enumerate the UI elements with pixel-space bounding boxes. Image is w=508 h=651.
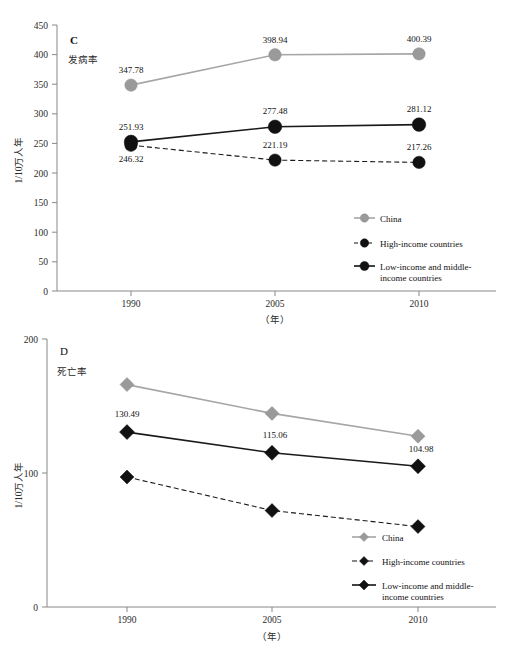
china-diamond-icon	[360, 533, 369, 542]
panel-c-subtitle: 发病率	[68, 54, 98, 65]
panel-c-x-ticks	[131, 291, 419, 296]
panel-c-value-high-income-2005: 221.19	[263, 140, 288, 150]
panel-c-plot: 450 400 350 300 250 200 150 100 50 0 1/1…	[0, 0, 508, 330]
panel-c-ytick-450: 450	[34, 21, 49, 31]
panel-d-value-low-middle-2010: 104.98	[409, 444, 434, 454]
panel-c-ytick-200: 200	[34, 169, 49, 179]
low-middle-diamond-icon	[359, 580, 369, 590]
panel-c-point-low-middle-1990	[124, 135, 138, 149]
panel-d-legend-item-low-middle[interactable]: Low-income and middle- income countries	[352, 580, 473, 602]
panel-c-legend-item-low-middle[interactable]: Low-income and middle- income countries	[354, 262, 471, 283]
panel-c-legend-label-low-middle-2: income countries	[380, 273, 442, 283]
panel-d-value-low-middle-1990: 130.49	[115, 409, 140, 419]
panel-d-legend: China High-income countries Low-income a…	[352, 533, 473, 602]
panel-d-xtick-2010: 2010	[409, 615, 428, 625]
high-income-diamond-icon	[360, 557, 369, 566]
panel-d-point-low-middle-1990	[120, 425, 135, 440]
panel-c-ytick-250: 250	[34, 139, 49, 149]
panel-c-value-low-middle-2010: 281.12	[407, 104, 432, 114]
panel-d-legend-label-high-income: High-income countries	[382, 557, 465, 567]
panel-d-y-ticks	[42, 339, 47, 607]
panel-d-xtick-2005: 2005	[263, 615, 282, 625]
panel-d-letter: D	[60, 345, 68, 357]
panel-c-ytick-100: 100	[34, 228, 49, 238]
panel-c-xtick-2010: 2010	[410, 299, 429, 309]
panel-c-value-high-income-2010: 217.26	[407, 142, 432, 152]
panel-c-point-china-2005	[269, 49, 281, 61]
china-marker-icon	[360, 214, 368, 222]
panel-c-ytick-400: 400	[34, 50, 49, 60]
panel-c-value-china-2005: 398.94	[263, 35, 288, 45]
panel-c-legend-item-china[interactable]: China	[354, 214, 402, 224]
panel-d-legend-item-china[interactable]: China	[352, 533, 404, 543]
panel-d-ytick-200: 200	[24, 335, 39, 345]
panel-c-y-ticks	[52, 25, 57, 291]
panel-c-legend: China High-income countries Low-income a…	[354, 214, 471, 283]
panel-c-legend-item-high-income[interactable]: High-income countries	[354, 239, 463, 249]
panel-c-point-low-middle-2010	[412, 118, 426, 132]
panel-c-value-low-middle-1990: 251.93	[119, 122, 144, 132]
panel-c-ytick-350: 350	[34, 80, 49, 90]
panel-c-legend-label-low-middle-1: Low-income and middle-	[380, 262, 471, 272]
panel-c-point-china-1990	[125, 79, 137, 91]
panel-d-legend-label-china: China	[382, 533, 404, 543]
panel-c-point-high-income-2010	[413, 156, 425, 168]
panel-c-ytick-300: 300	[34, 109, 49, 119]
panel-d-ytick-0: 0	[33, 603, 38, 613]
panel-d-legend-label-low-middle-2: income countries	[382, 592, 444, 602]
panel-c-ytick-0: 0	[43, 287, 48, 297]
panel-d-x-axis-title: （年）	[257, 631, 287, 642]
panel-d-subtitle: 死亡率	[57, 366, 87, 377]
panel-c-point-low-middle-2005	[268, 120, 282, 134]
panel-d-x-ticks	[127, 607, 418, 612]
panel-c-ytick-50: 50	[39, 257, 49, 267]
panel-c-legend-label-china: China	[380, 214, 402, 224]
panel-d-value-low-middle-2005: 115.06	[263, 430, 288, 440]
panel-d-xtick-1990: 1990	[118, 615, 137, 625]
panel-d-legend-label-low-middle-1: Low-income and middle-	[382, 581, 473, 591]
panel-d-plot: 200 100 0 1/10万人年 1990 2005 2010 （年） D 死…	[0, 325, 508, 651]
panel-d-series-high-income-line	[127, 477, 418, 527]
panel-c-legend-label-high-income: High-income countries	[380, 239, 463, 249]
chart-panel-d: 200 100 0 1/10万人年 1990 2005 2010 （年） D 死…	[0, 325, 508, 651]
panel-c-value-high-income-1990: 246.32	[119, 154, 144, 164]
panel-c-xtick-2005: 2005	[266, 299, 285, 309]
panel-c-value-china-1990: 347.78	[119, 65, 144, 75]
panel-d-point-high-income-2005	[265, 504, 279, 518]
panel-c-y-axis-title: 1/10万人年	[13, 137, 24, 184]
chart-panel-c: 450 400 350 300 250 200 150 100 50 0 1/1…	[0, 0, 508, 330]
panel-d-point-low-middle-2005	[265, 445, 280, 460]
panel-d-point-low-middle-2010	[411, 459, 426, 474]
panel-c-point-high-income-2005	[269, 154, 281, 166]
low-middle-marker-icon	[360, 262, 369, 271]
panel-c-x-axis-title: （年）	[260, 314, 290, 325]
high-income-marker-icon	[360, 239, 368, 247]
panel-d-legend-item-high-income[interactable]: High-income countries	[352, 557, 465, 567]
panel-c-ytick-150: 150	[34, 198, 49, 208]
panel-c-value-low-middle-2005: 277.48	[263, 106, 288, 116]
panel-d-point-china-1990	[120, 378, 134, 392]
panel-d-point-high-income-2010	[411, 520, 425, 534]
panel-d-point-high-income-1990	[120, 470, 134, 484]
panel-c-point-china-2010	[413, 48, 425, 60]
panel-d-ytick-100: 100	[24, 469, 39, 479]
panel-c-xtick-1990: 1990	[122, 299, 141, 309]
panel-c-letter: C	[70, 34, 78, 46]
panel-d-y-axis-title: 1/10万人年	[13, 462, 24, 509]
panel-d-point-china-2005	[265, 406, 279, 420]
panel-c-value-china-2010: 400.39	[407, 34, 432, 44]
panel-d-point-china-2010	[411, 429, 425, 443]
